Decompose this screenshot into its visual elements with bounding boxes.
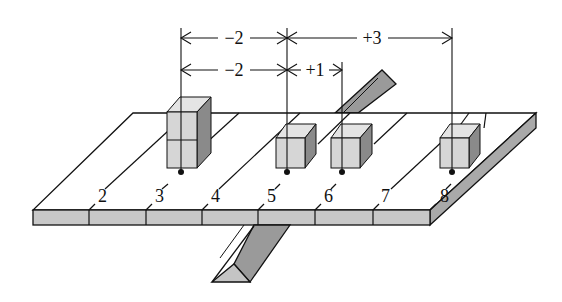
position-label-3: 3 (155, 186, 164, 206)
fulcrum-front (212, 225, 290, 282)
dimension-label-5-to-6: +1 (305, 60, 324, 80)
dimension-label-3-to-5-second: −2 (224, 60, 243, 80)
cube-stack-position-3 (167, 97, 211, 168)
dimension-label-3-to-5-top: −2 (224, 28, 243, 48)
dimension-labels: −2 +3 −2 +1 (224, 28, 381, 80)
position-label-6: 6 (324, 186, 333, 206)
position-label-8: 8 (440, 186, 449, 206)
cube-position-6 (331, 124, 372, 168)
position-label-4: 4 (211, 186, 220, 206)
balance-beam-diagram: 2 3 4 5 6 7 8 (0, 0, 562, 302)
cube-position-8 (440, 124, 480, 168)
position-label-5: 5 (267, 186, 276, 206)
fulcrum-back (335, 70, 396, 113)
dimension-label-5-to-8: +3 (362, 28, 381, 48)
cube-position-5 (276, 124, 316, 168)
position-label-7: 7 (381, 186, 390, 206)
position-label-2: 2 (98, 186, 107, 206)
